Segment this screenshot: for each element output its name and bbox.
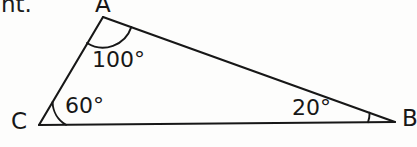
triangle-side-ab [103, 17, 395, 122]
angle-label-b: 20° [292, 97, 331, 119]
vertex-label-b: B [402, 107, 417, 130]
vertex-label-a: A [95, 0, 111, 16]
angle-label-c: 60° [65, 95, 104, 117]
triangle-side-cb [39, 122, 395, 125]
triangle-figure [0, 0, 417, 147]
angle-arc-c [53, 102, 66, 125]
angle-label-a: 100° [92, 49, 145, 71]
cropped-text-fragment: nt. [1, 0, 32, 16]
figure-canvas: nt. A C B 100° 60° 20° [0, 0, 417, 147]
angle-arc-b [368, 113, 370, 123]
vertex-label-c: C [11, 110, 27, 133]
angle-arc-a [87, 27, 131, 47]
